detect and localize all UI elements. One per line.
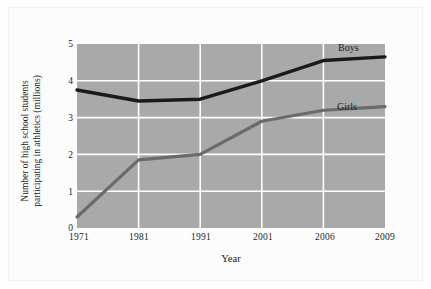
- y-tick-label-1: 1: [55, 188, 73, 198]
- y-axis-title-line1: Number of high school students: [20, 80, 30, 201]
- plot-svg: [77, 44, 385, 228]
- y-tick-label-3: 3: [55, 114, 73, 124]
- x-tick-label-1991: 1991: [171, 232, 231, 242]
- x-tick-label-2006: 2006: [295, 232, 355, 242]
- series-line-girls: [77, 107, 385, 217]
- y-axis-title-line2: participating in athletics (millions): [32, 75, 42, 207]
- grid-lines-vertical: [139, 44, 324, 228]
- x-tick-label-1981: 1981: [109, 232, 169, 242]
- x-axis-title: Year: [77, 253, 385, 264]
- series-label-girls: Girls: [337, 101, 357, 112]
- x-tick-label-1971: 1971: [49, 232, 109, 242]
- chart-figure: 5 4 3 2 1 0 Number of high school studen…: [0, 0, 431, 289]
- series-label-boys: Boys: [338, 42, 359, 53]
- y-axis-tick-labels: 5 4 3 2 1 0: [53, 0, 73, 289]
- plot-area: [77, 44, 385, 228]
- y-tick-label-5: 5: [55, 40, 73, 50]
- x-tick-label-2001: 2001: [233, 232, 293, 242]
- x-tick-label-2009: 2009: [355, 232, 415, 242]
- y-tick-label-4: 4: [55, 77, 73, 87]
- y-axis-title: Number of high school students participa…: [19, 41, 43, 241]
- y-tick-label-2: 2: [55, 151, 73, 161]
- series-line-boys: [77, 57, 385, 101]
